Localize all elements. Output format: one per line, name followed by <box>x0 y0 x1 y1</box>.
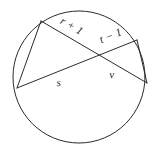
chord-left-to-topright <box>17 40 137 88</box>
chord-right-short <box>137 40 147 83</box>
label-v: v <box>109 68 115 80</box>
label-t-minus-1: t − 1 <box>98 25 124 45</box>
geometry-figure: r + 1 t − 1 s v <box>0 0 157 153</box>
chord-left-short <box>17 21 41 88</box>
circle-chords-diagram: r + 1 t − 1 s v <box>0 0 157 153</box>
chord-topleft-to-right <box>41 21 147 83</box>
label-s: s <box>56 76 61 88</box>
